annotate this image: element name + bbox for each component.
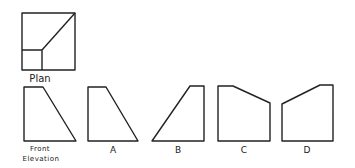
front-elevation-label-line2: Elevation <box>22 155 59 163</box>
option-a-label[interactable]: A <box>110 145 116 155</box>
option-b-label[interactable]: B <box>175 145 181 155</box>
front-elevation-label-line1: Front <box>30 145 50 153</box>
option-a-shape[interactable] <box>88 87 138 141</box>
plan-diagonal <box>42 13 75 50</box>
drawing-canvas <box>0 0 355 168</box>
front-elevation-shape <box>24 87 76 141</box>
plan-label: Plan <box>29 73 50 84</box>
option-d-label[interactable]: D <box>304 145 311 155</box>
option-d-shape[interactable] <box>282 85 333 141</box>
option-c-label[interactable]: C <box>241 145 247 155</box>
option-b-shape[interactable] <box>152 86 204 141</box>
plan-view <box>22 13 75 70</box>
plan-inner-square <box>22 50 42 70</box>
option-c-shape[interactable] <box>218 86 270 141</box>
